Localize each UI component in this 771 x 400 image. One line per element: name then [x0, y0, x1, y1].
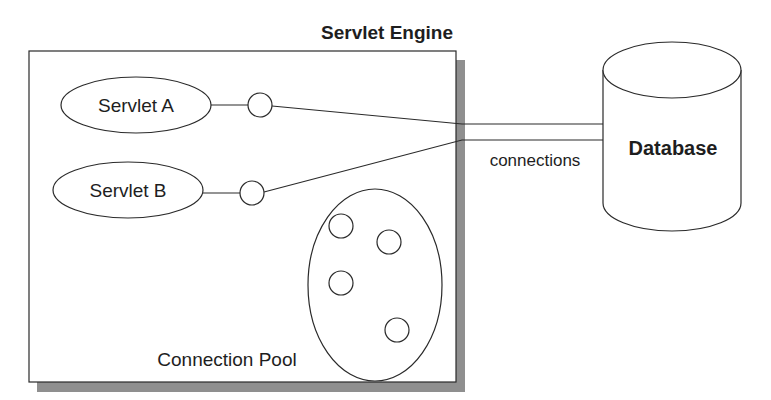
- pooled-connection-icon: [329, 214, 353, 238]
- servlet-connection-pool-diagram: Servlet Engine Servlet A Servlet B Conne…: [0, 0, 771, 400]
- servlet-b-connection-icon: [240, 181, 264, 205]
- servlet-b-label: Servlet B: [89, 180, 166, 201]
- servlet-engine-label: Servlet Engine: [321, 22, 453, 43]
- pooled-connection-icon: [329, 271, 353, 295]
- database-label: Database: [629, 137, 718, 159]
- database-top: [603, 42, 741, 98]
- servlet-a-label: Servlet A: [98, 95, 174, 116]
- pooled-connection-icon: [377, 230, 401, 254]
- connection-pool-label: Connection Pool: [157, 349, 296, 370]
- connections-label: connections: [490, 151, 581, 170]
- connection-pool-ellipse: [308, 189, 442, 381]
- pooled-connection-icon: [385, 318, 409, 342]
- servlet-a: Servlet A: [61, 77, 211, 133]
- servlet-b: Servlet B: [53, 162, 203, 218]
- connection-pool: [308, 189, 442, 381]
- servlet-a-connection-icon: [248, 93, 272, 117]
